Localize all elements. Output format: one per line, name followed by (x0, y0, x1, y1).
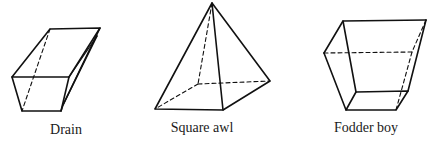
square-awl-label: Square awl (171, 120, 234, 136)
drain-front-face (12, 77, 69, 111)
awl-front-edge (212, 3, 223, 110)
figure-canvas: Drain Square awl Fodder boy (0, 0, 433, 149)
square-awl-solid (155, 3, 270, 110)
fodder-hidden-edges (324, 20, 426, 110)
awl-hidden-edges (155, 3, 270, 109)
awl-outline (155, 3, 270, 110)
fodder-top-edges (324, 20, 426, 53)
drain-right-inner-edge (63, 36, 97, 105)
drain-hidden-edge (22, 29, 50, 111)
drain-label: Drain (50, 122, 82, 138)
drain-top-face (12, 28, 100, 77)
drain-solid (12, 28, 100, 111)
fodder-left-edge (324, 53, 346, 110)
drain-right-face-edge (69, 36, 97, 77)
fodder-front-left-edge (343, 21, 356, 92)
fodder-boy-solid (324, 20, 426, 110)
fodder-boy-label: Fodder boy (334, 120, 398, 136)
